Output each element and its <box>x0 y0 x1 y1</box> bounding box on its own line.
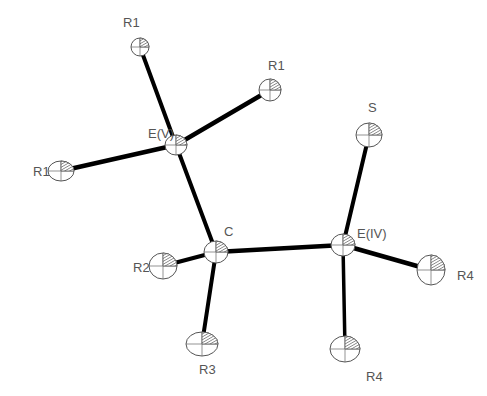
shaded-octant <box>140 38 149 47</box>
atom-eiv <box>331 234 355 256</box>
atom-r4a <box>417 255 445 285</box>
atom-label-r1b: R1 <box>268 58 285 73</box>
atom-r1a <box>131 38 149 56</box>
atom-r1b <box>259 79 281 101</box>
labels-layer: E(V)R1R1R1CE(IV)SR2R3R4R4 <box>33 15 474 384</box>
atom-label-r4b: R4 <box>366 369 383 384</box>
shaded-octant <box>343 234 355 245</box>
atom-r1c <box>48 161 74 181</box>
bond-ev-r1c <box>61 145 176 171</box>
atom-label-ev: E(V) <box>148 126 174 141</box>
atom-s <box>356 123 382 147</box>
atom-r3 <box>186 332 218 356</box>
atom-c <box>204 241 228 263</box>
atom-r2 <box>149 253 177 279</box>
shaded-octant <box>163 253 177 266</box>
bond-c-r3 <box>202 252 216 344</box>
shaded-octant <box>345 336 360 349</box>
atom-label-r2: R2 <box>133 260 150 275</box>
shaded-octant <box>216 241 228 252</box>
bond-ev-r1b <box>176 90 270 145</box>
shaded-octant <box>61 161 74 171</box>
atoms-layer <box>48 38 445 362</box>
atom-label-c: C <box>224 224 233 239</box>
atom-r4b <box>330 336 360 362</box>
atom-label-r4a: R4 <box>457 268 474 283</box>
shaded-octant <box>270 79 281 90</box>
bonds-layer <box>61 47 431 349</box>
atom-label-r1a: R1 <box>123 15 140 30</box>
bond-eiv-r4b <box>343 245 345 349</box>
shaded-octant <box>369 123 382 135</box>
atom-label-r3: R3 <box>199 362 216 377</box>
atom-label-eiv: E(IV) <box>357 226 387 241</box>
shaded-octant <box>202 332 218 344</box>
molecular-structure-diagram: E(V)R1R1R1CE(IV)SR2R3R4R4 <box>0 0 487 396</box>
atom-label-s: S <box>368 100 377 115</box>
shaded-octant <box>176 135 187 145</box>
bond-ev-c <box>176 145 216 252</box>
atom-label-r1c: R1 <box>33 164 50 179</box>
bond-c-eiv <box>216 245 343 252</box>
shaded-octant <box>431 255 445 270</box>
